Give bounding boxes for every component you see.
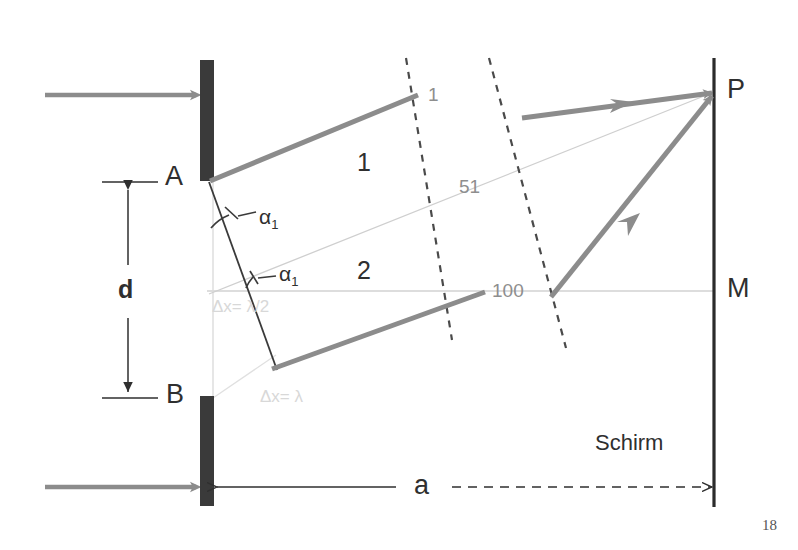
label-region-2: 2 — [357, 258, 371, 283]
construction-line-bp — [209, 92, 714, 398]
label-angle-alpha-lower: α1 — [279, 263, 298, 288]
ray-path-2 — [272, 96, 712, 369]
label-point-m: M — [727, 275, 750, 302]
page-number: 18 — [762, 517, 777, 534]
label-slit-a: A — [165, 163, 183, 190]
label-wavefront-51: 51 — [459, 177, 480, 196]
label-angle-alpha-upper: α1 — [259, 206, 278, 231]
angle-alpha-lower-symbol: α — [279, 262, 291, 285]
angle-arc-upper — [211, 207, 256, 228]
angle-alpha-upper-subscript: 1 — [271, 217, 278, 232]
label-point-p: P — [727, 76, 745, 103]
angle-alpha-lower-subscript: 1 — [291, 274, 298, 289]
label-wavefront-1: 1 — [428, 85, 439, 104]
label-region-1: 1 — [357, 150, 371, 175]
label-wavefront-100: 100 — [492, 281, 524, 300]
physics-diagram-double-slit: A B P M d a Schirm 1 2 α1 α1 1 51 100 Δx… — [0, 0, 798, 550]
label-path-difference-lower: Δx= λ — [260, 388, 303, 405]
label-slit-b: B — [166, 381, 184, 408]
angle-alpha-upper-symbol: α — [259, 205, 271, 228]
barrier-slit-plate — [200, 60, 214, 506]
label-screen-distance-a: a — [414, 472, 429, 499]
label-screen-schirm: Schirm — [595, 432, 663, 454]
label-slit-distance-d: d — [118, 277, 133, 302]
label-path-difference-upper: Δx= λ/2 — [212, 298, 269, 315]
ray-path-1 — [210, 93, 712, 181]
